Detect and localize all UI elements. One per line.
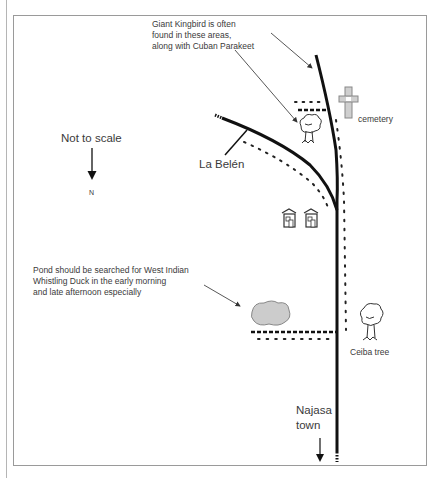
tree-icon: [300, 114, 321, 143]
kingbird-arrow-1: [271, 33, 312, 68]
kingbird-note: Giant Kingbird is often found in these a…: [152, 19, 254, 52]
place-la-belen: La Belén: [199, 157, 244, 171]
north-arrow-icon: [88, 148, 97, 180]
house-icon: [304, 209, 318, 227]
ceiba-tree-icon: [360, 304, 383, 341]
scale-note: Not to scale: [61, 131, 122, 145]
pond-track: [251, 332, 337, 339]
place-cemetery: cemetery: [358, 114, 393, 125]
north-label: N: [89, 187, 94, 198]
kingbird-note-line-3: along with Cuban Parakeet: [152, 41, 254, 52]
main-road: [316, 55, 337, 462]
pond-arrow: [204, 285, 240, 306]
cross-icon: [339, 87, 358, 118]
place-najasa-town: Najasa town: [296, 403, 332, 433]
house-icon: [282, 209, 296, 227]
pond-note-line-1: Pond should be searched for West Indian: [33, 265, 189, 276]
najasa-arrow-icon: [316, 438, 324, 462]
kingbird-note-line-1: Giant Kingbird is often: [152, 19, 254, 30]
pond-note-line-2: Whistling Duck in the early morning: [33, 276, 189, 287]
pond-note: Pond should be searched for West Indian …: [33, 265, 189, 298]
cemetery-track: [295, 102, 327, 110]
kingbird-arrow-2: [235, 50, 297, 122]
pond-note-line-3: and late afternoon especially: [33, 287, 189, 298]
kingbird-note-line-2: found in these areas,: [152, 30, 254, 41]
najasa-line-1: Najasa: [296, 403, 332, 418]
place-ceiba-tree: Ceiba tree: [350, 347, 389, 358]
pond-shape: [251, 301, 290, 325]
site-map: [0, 0, 439, 478]
najasa-line-2: town: [296, 418, 332, 433]
trail-la-belen: [244, 142, 328, 208]
